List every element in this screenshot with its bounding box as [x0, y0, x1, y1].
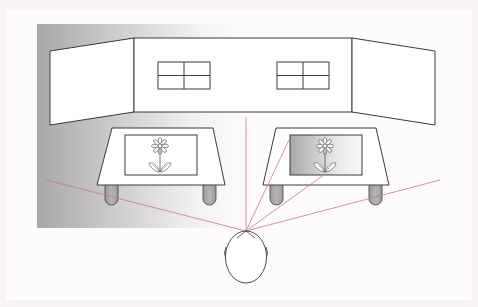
viewer-head — [225, 231, 268, 283]
room-perspective-diagram — [0, 0, 478, 307]
left-wall-panel — [50, 38, 134, 125]
wall — [50, 38, 435, 125]
head-outline — [226, 231, 267, 283]
diagram-canvas — [0, 0, 478, 307]
right-wall-panel — [352, 38, 435, 125]
